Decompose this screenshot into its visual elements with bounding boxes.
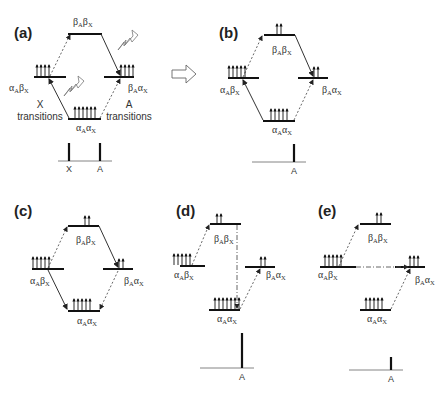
spin-arrowhead — [273, 108, 276, 112]
panel-b: (b) βAβX αAβX βAαX αAαX A — [219, 23, 342, 176]
spins-right — [119, 64, 134, 76]
spin-arrowhead — [339, 254, 342, 258]
spin-arrowhead — [121, 258, 124, 262]
state-label-top: βAβX — [214, 233, 234, 245]
panel-label-c: (c) — [14, 202, 32, 219]
state-label-right: βAαX — [128, 82, 148, 94]
spin-arrowhead — [43, 256, 46, 260]
spin-arrowhead — [243, 65, 246, 69]
state-label-right: βAαX — [124, 275, 144, 287]
spin-arrowhead — [47, 64, 50, 68]
spin-arrowhead — [123, 64, 126, 68]
peak-label-x: X — [66, 164, 72, 174]
transition-top-right — [295, 35, 313, 76]
spins-top — [215, 213, 222, 223]
panel-a: (a) βAβX αAβX βAαX αAαX X transitions A … — [9, 16, 152, 174]
spin-arrowhead — [89, 106, 92, 110]
a-transitions-label-2: transitions — [106, 111, 152, 122]
spin-arrowhead — [316, 66, 319, 70]
spin-arrowhead — [85, 106, 88, 110]
spin-arrowhead — [184, 253, 187, 257]
spin-arrowhead — [131, 64, 134, 68]
transition-left-top — [339, 225, 358, 266]
spin-arrowhead — [39, 256, 42, 260]
spin-arrowhead — [225, 297, 228, 301]
spin-arrowhead — [221, 297, 224, 301]
panel-d: (d) βAβX αAβX βAαX αAαX A — [172, 202, 286, 382]
state-label-bottom: αAαX — [272, 124, 292, 136]
spin-arrowhead — [335, 254, 338, 258]
spin-arrowhead — [119, 64, 122, 68]
spins-bottom — [364, 297, 383, 309]
transition-top-right — [99, 226, 118, 267]
state-label-left: αAβX — [220, 84, 240, 96]
transition-left-top — [243, 36, 262, 77]
spin-arrowhead — [408, 255, 411, 259]
spins-right — [259, 256, 266, 266]
state-label-top: βAβX — [73, 16, 93, 28]
state-label-right: βAαX — [322, 84, 342, 96]
peak-label-a: A — [388, 374, 394, 384]
spin-arrowhead — [279, 23, 282, 27]
transition-x-left-top — [50, 35, 70, 76]
spin-arrowhead — [35, 64, 38, 68]
spin-arrowhead — [275, 23, 278, 27]
spin-arrowhead — [263, 256, 266, 260]
state-label-left: αAβX — [174, 269, 194, 281]
spin-arrowhead — [412, 255, 415, 259]
spin-arrowhead — [277, 108, 280, 112]
spins-right — [117, 258, 124, 268]
spins-left — [31, 256, 50, 268]
spin-arrowhead — [331, 254, 334, 258]
spins-bottom — [269, 108, 288, 120]
spins-top — [275, 23, 282, 34]
spin-arrowhead — [219, 213, 222, 217]
spin-arrowhead — [180, 253, 183, 257]
state-label-left: αAβX — [9, 82, 29, 94]
spins-bottom — [73, 106, 96, 118]
state-label-bottom: αAαX — [367, 313, 387, 325]
spin-arrowhead — [285, 108, 288, 112]
spin-arrowhead — [269, 108, 272, 112]
spin-arrowhead — [43, 64, 46, 68]
x-transitions-label-2: transitions — [17, 111, 63, 122]
panel-label-d: (d) — [176, 202, 195, 219]
transition-left-top — [48, 227, 67, 268]
spin-arrowhead — [237, 297, 240, 301]
spins-left — [35, 64, 50, 76]
transition-left-top — [192, 225, 209, 265]
state-label-bottom: αAαX — [217, 313, 237, 325]
spin-arrowhead — [239, 65, 242, 69]
spin-arrowhead — [364, 297, 367, 301]
spin-arrowhead — [93, 106, 96, 110]
spin-arrowhead — [31, 256, 34, 260]
state-label-top: βAβX — [272, 44, 292, 56]
transition-bottom-right — [240, 269, 260, 309]
transition-bottom-left — [243, 80, 263, 120]
spins-right — [312, 66, 319, 77]
state-label-top: βAβX — [76, 234, 96, 246]
panel-e: (e) βAβX αAβX βAαX αAαX A — [318, 202, 435, 384]
spin-arrowhead — [35, 256, 38, 260]
panel-label-e: (e) — [318, 202, 336, 219]
spin-arrowhead — [259, 256, 262, 260]
lightning-bolt-icon — [64, 76, 84, 96]
spin-arrowhead — [213, 297, 216, 301]
lightning-bolt-icon — [118, 30, 138, 50]
spin-arrowhead — [217, 297, 220, 301]
peak-label-a: A — [291, 166, 297, 176]
panel-label-a: (a) — [14, 24, 32, 41]
transition-a-top-right — [101, 34, 120, 75]
spin-arrowhead — [379, 212, 382, 216]
spin-arrowhead — [323, 254, 326, 258]
transition-left-bottom — [48, 270, 67, 309]
x-transitions-label-1: X — [37, 99, 44, 110]
spins-bottom — [213, 297, 240, 309]
transition-bottom-right — [294, 80, 313, 120]
spin-arrowhead — [83, 215, 86, 219]
spins-top — [375, 212, 382, 223]
spin-arrowhead — [233, 297, 236, 301]
spin-arrowhead — [281, 108, 284, 112]
spin-arrowhead — [73, 106, 76, 110]
spin-arrowhead — [312, 66, 315, 70]
